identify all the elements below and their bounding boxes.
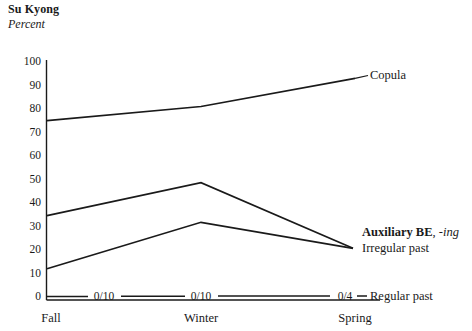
- y-tick-label: 0: [35, 290, 41, 302]
- annotation-fraction-spring: 0/4: [338, 290, 353, 302]
- y-tick-label: 50: [30, 173, 42, 185]
- series-label-auxiliary-be-ing: -ing: [439, 225, 459, 239]
- leader-line-copula: [355, 76, 368, 79]
- y-tick-label: 40: [30, 196, 42, 208]
- x-axis-ticks: Fall Winter Spring: [41, 311, 372, 325]
- x-tick-label-winter: Winter: [184, 311, 219, 325]
- series-label-auxiliary-be-bold: Auxiliary BE: [362, 225, 433, 239]
- series-label-irregular-past: Irregular past: [362, 241, 430, 255]
- y-tick-label: 70: [30, 126, 42, 138]
- y-tick-label: 100: [24, 55, 42, 67]
- line-chart: 100 90 80 70 60 50 40 30 20 10 0 Copula …: [0, 0, 472, 331]
- annotation-fraction-winter: 0/10: [191, 290, 212, 302]
- series-label-auxiliary-be: Auxiliary BE, -ing: [362, 225, 459, 239]
- chart-page: Su Kyong Percent 100 90 80 70 60 50 40 3…: [0, 0, 472, 331]
- y-tick-label: 20: [30, 243, 42, 255]
- y-tick-label: 30: [30, 220, 42, 232]
- y-tick-label: 90: [30, 79, 42, 91]
- x-tick-label-fall: Fall: [41, 311, 61, 325]
- annotation-fraction-fall: 0/10: [94, 290, 115, 302]
- y-tick-label: 60: [30, 149, 42, 161]
- y-axis-ticks: 100 90 80 70 60 50 40 30 20 10 0: [24, 55, 42, 302]
- series-line-auxiliary-be: [47, 183, 353, 249]
- series-label-regular-past: Regular past: [370, 289, 433, 303]
- y-tick-label: 80: [30, 102, 42, 114]
- series-label-copula: Copula: [370, 68, 407, 82]
- x-tick-label-spring: Spring: [338, 311, 372, 325]
- y-tick-label: 10: [30, 267, 42, 279]
- series-line-copula: [47, 78, 355, 120]
